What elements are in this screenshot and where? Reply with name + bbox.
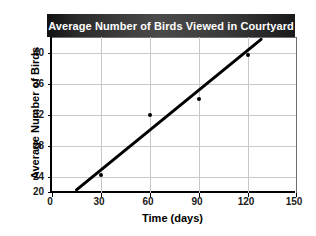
y-axis-title: Average Number of Birds: [29, 33, 41, 193]
trend-line: [52, 37, 297, 193]
xtick-label-30: 30: [84, 196, 114, 207]
trend-line-segment: [77, 39, 262, 190]
xtick-label-60: 60: [133, 196, 163, 207]
plot-area: [50, 37, 295, 193]
xtick-label-120: 120: [231, 196, 261, 207]
chart-title: Average Number of Birds Viewed in Courty…: [48, 20, 294, 32]
xtick-label-150: 150: [279, 196, 309, 207]
x-axis-title: Time (days): [50, 212, 295, 224]
chart-title-bar: Average Number of Birds Viewed in Courty…: [47, 14, 295, 37]
data-point-60: [148, 113, 152, 117]
chart-figure: Average Number of Birds Viewed in Courty…: [0, 0, 316, 236]
xtick-label-0: 0: [35, 196, 65, 207]
data-point-120: [246, 53, 250, 57]
xtick-label-90: 90: [182, 196, 212, 207]
